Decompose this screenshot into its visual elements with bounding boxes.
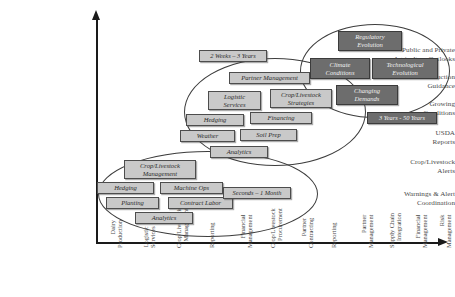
box-label-line1: Technological xyxy=(386,61,423,69)
x-axis-label-supply-chain-integration: Supply Chain Integration xyxy=(388,213,403,248)
box-logistic-services[interactable]: Logistic Services xyxy=(208,91,261,110)
box-label-line1: Climate xyxy=(330,61,351,69)
box-label-line1: Partner Management xyxy=(241,74,298,82)
box-hedging-mid[interactable]: Hedging xyxy=(186,114,244,126)
box-label-line1: Crop/Livestock xyxy=(281,91,321,99)
box-label-line2: Management xyxy=(143,170,177,178)
box-label-line2: Evolution xyxy=(357,41,383,49)
timeframe-tag-label: 2 Weeks – 3 Years xyxy=(210,52,256,60)
box-label-line1: Changing xyxy=(354,87,380,95)
box-label-line1: Contract Labor xyxy=(180,199,221,207)
box-label-line2: Evolution xyxy=(392,69,418,77)
y-axis-label-line1: Crop/Livestock xyxy=(367,158,455,167)
box-soil-prep[interactable]: Soil Prep xyxy=(240,129,297,141)
box-label-line1: Machine Ops xyxy=(174,184,209,192)
box-analytics-short[interactable]: Analytics xyxy=(135,212,193,224)
y-axis-label-line1: Warnings & Alert xyxy=(367,190,455,199)
box-changing-demands[interactable]: Changing Demands xyxy=(336,85,398,105)
diagram-canvas: Public and Private Agriculture Outlooks … xyxy=(0,0,455,297)
timeframe-tag-short-term[interactable]: Seconds – 1 Month xyxy=(223,187,291,199)
box-hedging-short[interactable]: Hedging xyxy=(97,182,154,194)
box-label-line1: Analytics xyxy=(227,148,252,156)
x-axis-label-line2: Contracting xyxy=(307,218,314,248)
box-label-line2: Demands xyxy=(355,95,380,103)
box-crop-livestock-management[interactable]: Crop/Livestock Management xyxy=(124,160,196,179)
box-label-line1: Soil Prep xyxy=(256,131,280,139)
y-axis-label-line1: USDA xyxy=(367,129,455,138)
timeframe-tag-label: Seconds – 1 Month xyxy=(233,189,282,197)
x-axis-label-line1: Reporting xyxy=(330,222,337,248)
x-axis-label-line2: Production xyxy=(116,220,123,248)
x-axis-label-line2: Management xyxy=(445,215,452,248)
box-label-line1: Analytics xyxy=(152,214,177,222)
x-axis-label-partner-management: Partner Management xyxy=(360,215,375,248)
y-axis-label-warnings-alert-coordination: Warnings & Alert Coordination xyxy=(367,190,455,207)
y-axis-line xyxy=(96,18,98,243)
y-axis-label-line2: Coordination xyxy=(367,199,455,208)
timeframe-tag-mid-term[interactable]: 2 Weeks – 3 Years xyxy=(199,50,267,62)
x-axis-label-financial-management-2: Financial Management xyxy=(414,215,429,248)
box-financing[interactable]: Financing xyxy=(250,112,312,124)
y-axis-label-crop-livestock-alerts: Crop/Livestock Alerts xyxy=(367,158,455,175)
box-label-line1: Regulatory xyxy=(355,33,384,41)
y-axis-label-line2: Reports xyxy=(367,138,455,147)
x-axis-label-line2: Management xyxy=(367,215,374,248)
box-partner-management[interactable]: Partner Management xyxy=(229,72,310,84)
box-label-line2: Strategies xyxy=(288,99,314,107)
box-label-line1: Crop/Livestock xyxy=(140,162,180,170)
box-label-line1: Logistic xyxy=(224,93,245,101)
box-climate-conditions[interactable]: Climate Conditions xyxy=(310,58,370,79)
x-axis-label-reporting-2: Reporting xyxy=(330,222,337,248)
x-axis-label-line1: Supply Chain xyxy=(388,213,395,248)
y-axis-label-usda-reports: USDA Reports xyxy=(367,129,455,146)
x-axis-label-line1: Risk xyxy=(438,215,445,248)
box-machine-ops[interactable]: Machine Ops xyxy=(160,182,223,194)
box-regulatory-evolution[interactable]: Regulatory Evolution xyxy=(338,31,402,51)
x-axis-label-partner-contracting: Partner Contracting xyxy=(300,218,315,248)
box-label-line1: Financing xyxy=(267,114,294,122)
x-axis-label-line1: Partner xyxy=(300,218,307,248)
x-axis-label-line2: Integration xyxy=(395,213,402,248)
timeframe-tag-label: 3 Years - 50 Years xyxy=(379,114,425,122)
x-axis-label-dairy-production: Dairy Production xyxy=(109,220,124,248)
box-label-line1: Planting xyxy=(121,199,144,207)
y-axis-arrow-icon xyxy=(92,10,100,20)
y-axis-label-line2: Alerts xyxy=(367,167,455,176)
x-axis-label-line1: Dairy xyxy=(109,220,116,248)
x-axis-label-line1: Financial xyxy=(414,215,421,248)
box-label-line2: Conditions xyxy=(326,69,355,77)
timeframe-tag-long-term[interactable]: 3 Years - 50 Years xyxy=(367,112,437,124)
box-crop-livestock-strategies[interactable]: Crop/Livestock Strategies xyxy=(270,89,332,108)
x-axis-label-line1: Partner xyxy=(360,215,367,248)
box-label-line1: Hedging xyxy=(114,184,137,192)
x-axis-label-line2: Management xyxy=(421,215,428,248)
box-label-line1: Hedging xyxy=(204,116,227,124)
box-planting[interactable]: Planting xyxy=(106,197,159,209)
box-label-line2: Services xyxy=(224,101,246,109)
box-weather[interactable]: Weather xyxy=(180,130,235,142)
x-axis-label-risk-management: Risk Management xyxy=(438,215,453,248)
box-technological-evolution[interactable]: Technological Evolution xyxy=(372,58,438,79)
box-analytics-mid[interactable]: Analytics xyxy=(210,146,268,158)
box-label-line1: Weather xyxy=(197,132,219,140)
